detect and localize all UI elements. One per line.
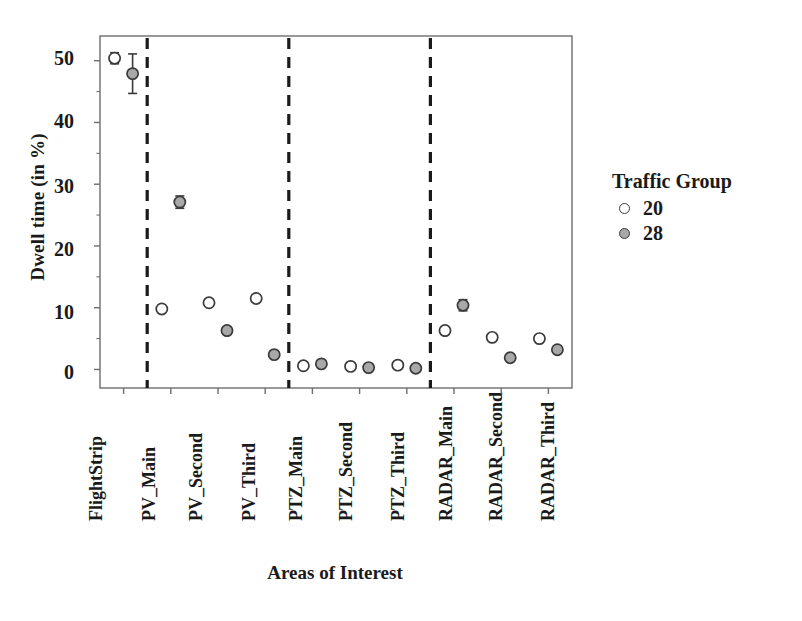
data-point [251,293,262,304]
data-point [534,333,545,344]
data-point [439,325,450,336]
plot-area [0,0,802,621]
chart-figure: Dwell time (in %) 50 40 30 20 10 0 Fligh… [0,0,802,621]
data-point [109,53,120,64]
data-point [457,300,468,311]
data-point [269,349,280,360]
data-point [156,303,167,314]
data-point [174,196,185,208]
data-point [345,361,356,372]
data-point [221,325,232,336]
data-point [363,362,374,373]
data-point [316,358,327,369]
data-point [392,360,403,371]
legend-marker-open-circle-icon [612,198,636,220]
data-point [505,352,516,363]
legend-marker-filled-circle-icon [612,223,636,245]
legend-item-28[interactable]: 28 [612,221,732,246]
data-point [203,297,214,308]
legend-title: Traffic Group [612,170,732,193]
legend-item-20[interactable]: 20 [612,196,732,221]
legend-item-label: 28 [643,222,663,245]
data-point [487,332,498,343]
data-point [410,363,421,374]
data-point [552,344,563,355]
data-point [127,54,138,94]
legend: Traffic Group 20 28 [612,170,732,246]
data-point [298,360,309,371]
legend-item-label: 20 [643,197,663,220]
